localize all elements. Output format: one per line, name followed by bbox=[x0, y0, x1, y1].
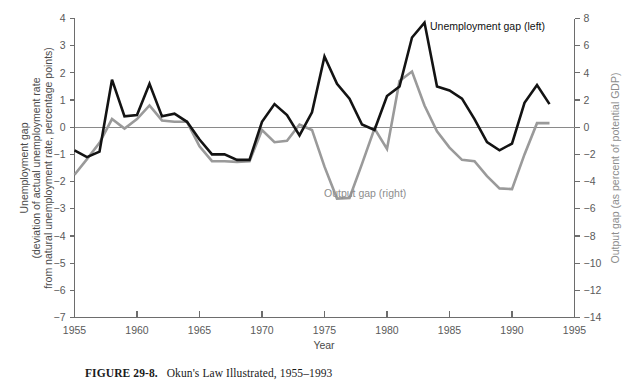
svg-text:−4: −4 bbox=[584, 175, 596, 187]
svg-text:−2: −2 bbox=[54, 175, 66, 187]
svg-text:8: 8 bbox=[584, 12, 590, 24]
svg-text:−3: −3 bbox=[54, 202, 66, 214]
svg-text:1960: 1960 bbox=[125, 324, 149, 336]
y-axis-right-ticks: 86420−2−4−6−8−10−12−14 bbox=[575, 12, 602, 323]
svg-text:0: 0 bbox=[584, 121, 590, 133]
series-line-unemployment-gap bbox=[75, 23, 550, 160]
svg-text:−10: −10 bbox=[584, 257, 602, 269]
svg-text:1990: 1990 bbox=[500, 324, 524, 336]
y-axis-left-title-line-2: (deviation of actual unemployment rate bbox=[30, 77, 42, 258]
svg-text:−4: −4 bbox=[54, 230, 66, 242]
y-axis-left-ticks: 43210−1−2−3−4−5−6−7 bbox=[54, 12, 75, 323]
svg-text:−1: −1 bbox=[54, 148, 66, 160]
svg-text:−12: −12 bbox=[584, 284, 602, 296]
svg-text:−2: −2 bbox=[584, 148, 596, 160]
svg-text:4: 4 bbox=[584, 67, 590, 79]
x-axis-title: Year bbox=[313, 339, 335, 351]
svg-text:2: 2 bbox=[584, 94, 590, 106]
svg-text:−14: −14 bbox=[584, 311, 602, 323]
chart-canvas: 43210−1−2−3−4−5−6−7 86420−2−4−6−8−10−12−… bbox=[0, 0, 629, 389]
y-axis-left-title-group: Unemployment gap (deviation of actual un… bbox=[18, 47, 54, 289]
figure-caption-text: Okun's Law Illustrated, 1955–1993 bbox=[167, 367, 333, 379]
svg-text:2: 2 bbox=[60, 67, 66, 79]
svg-text:4: 4 bbox=[60, 12, 66, 24]
svg-text:6: 6 bbox=[584, 39, 590, 51]
legend-label-output-gap: Output gap (right) bbox=[324, 187, 406, 199]
svg-text:0: 0 bbox=[60, 121, 66, 133]
svg-text:−6: −6 bbox=[54, 284, 66, 296]
svg-text:−7: −7 bbox=[54, 311, 66, 323]
svg-text:−5: −5 bbox=[54, 257, 66, 269]
y-axis-left-title-line-3: from natural unemployment rate, percenta… bbox=[42, 47, 54, 289]
svg-text:1: 1 bbox=[60, 94, 66, 106]
svg-text:1955: 1955 bbox=[63, 324, 87, 336]
svg-text:1995: 1995 bbox=[563, 324, 587, 336]
x-axis-ticks: 195519601965197019751980198519901995 bbox=[63, 311, 587, 336]
y-axis-left-title-line-1: Unemployment gap bbox=[18, 122, 30, 213]
svg-text:3: 3 bbox=[60, 39, 66, 51]
svg-text:1975: 1975 bbox=[313, 324, 337, 336]
figure-caption: FIGURE 29-8. Okun's Law Illustrated, 195… bbox=[85, 367, 332, 379]
svg-text:1980: 1980 bbox=[375, 324, 399, 336]
svg-text:1970: 1970 bbox=[250, 324, 274, 336]
svg-text:−8: −8 bbox=[584, 230, 596, 242]
legend-label-unemployment-gap: Unemployment gap (left) bbox=[430, 20, 545, 32]
y-axis-right-title: Output gap (as percent of potential GDP) bbox=[609, 73, 621, 264]
svg-text:1985: 1985 bbox=[438, 324, 462, 336]
okuns-law-figure: 43210−1−2−3−4−5−6−7 86420−2−4−6−8−10−12−… bbox=[0, 0, 629, 389]
svg-text:−6: −6 bbox=[584, 202, 596, 214]
svg-text:1965: 1965 bbox=[188, 324, 212, 336]
figure-caption-label: FIGURE 29-8. bbox=[85, 367, 158, 379]
